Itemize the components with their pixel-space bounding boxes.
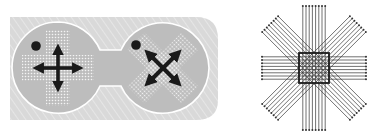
bundle-diagonal-ne [261,15,367,121]
center-square [299,53,329,83]
diagram-canvas [0,0,369,136]
motion-panel [10,14,218,121]
figure [0,0,369,136]
bundle-diagonal-nw [261,15,367,121]
indicator-dot-left [31,41,41,51]
bundle-vertical [302,5,326,131]
bundle-horizontal [261,56,367,80]
line-bundle-diagram [261,5,367,131]
indicator-dot-right [131,40,141,50]
